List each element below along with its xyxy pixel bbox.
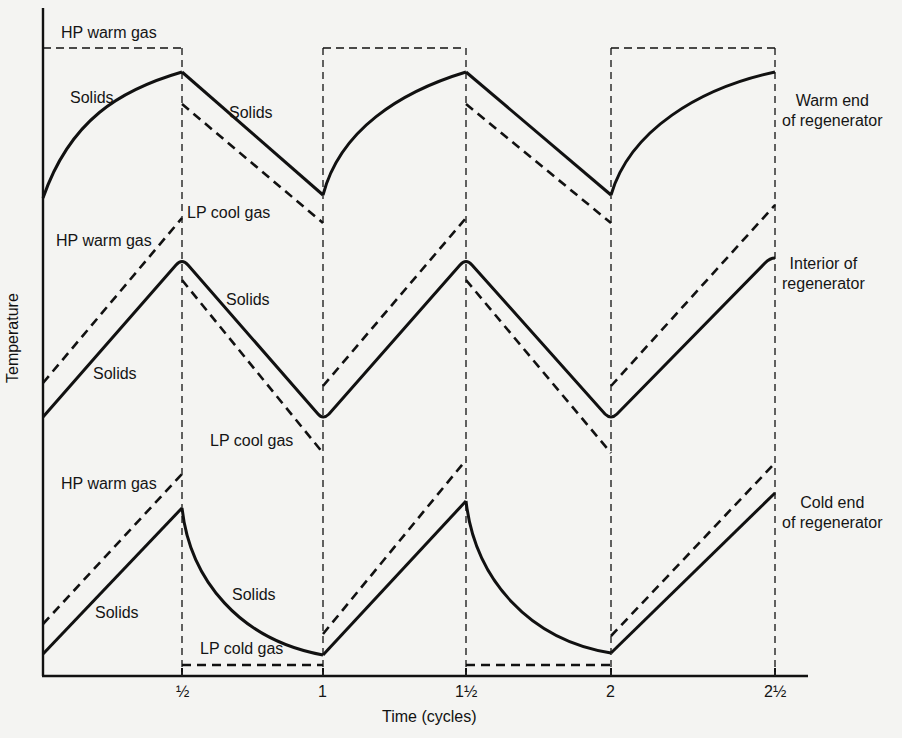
interior-solids-heating-label: Solids (93, 365, 137, 383)
warm-end-solids (43, 72, 775, 198)
interior-hp-gas-label: HP warm gas (56, 232, 152, 250)
interior-solids (43, 258, 775, 417)
interior-lp-gas-bottom-label: LP cool gas (210, 432, 293, 450)
cold-end-title: Cold end of regenerator (782, 493, 883, 533)
interior-title: Interior of regenerator (782, 254, 865, 294)
cold-end-solids-heating-label: Solids (95, 604, 139, 622)
x-tick-label: 2½ (764, 683, 786, 701)
warm-end-solids-cooling-label: Solids (229, 104, 273, 122)
cold-end-solids-cooling-label: Solids (232, 586, 276, 604)
warm-end-solids-label: Solids (70, 89, 114, 107)
x-tick-label: 1½ (455, 683, 477, 701)
warm-end-title: Warm end of regenerator (782, 91, 883, 131)
cold-end-hp-gas-label: HP warm gas (61, 475, 157, 493)
axes (42, 8, 808, 676)
x-tick-label: 1 (318, 683, 327, 701)
x-tick-label: ½ (176, 683, 189, 701)
cold-end-lp-gas-label: LP cold gas (200, 640, 283, 658)
x-axis-label: Time (cycles) (382, 708, 477, 726)
interior-lp-gas-top-label: LP cool gas (187, 204, 270, 222)
y-axis-label: Temperature (4, 293, 22, 383)
x-tick-label: 2 (606, 683, 615, 701)
interior-hp-gas (43, 205, 775, 386)
warm-end-hp-gas-label: HP warm gas (61, 24, 157, 42)
interior-solids-cooling-label: Solids (226, 291, 270, 309)
cold-end-solids (43, 493, 775, 655)
